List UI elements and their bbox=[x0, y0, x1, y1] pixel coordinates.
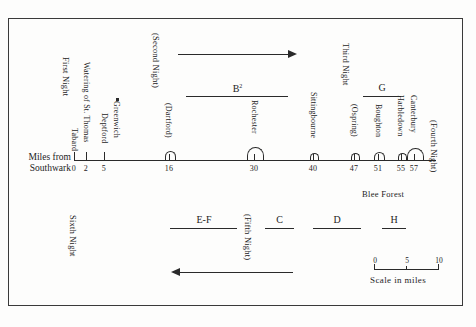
axis-tick-label-57: 57 bbox=[404, 165, 424, 173]
segment-label-g: G bbox=[365, 83, 399, 93]
figure-canvas: Miles from Southwark 0 2 5 16 30 40 47 5… bbox=[0, 0, 476, 327]
segment-label-c: C bbox=[264, 215, 295, 225]
segment-line-h bbox=[382, 228, 406, 229]
greenwich-square-marker bbox=[116, 98, 119, 101]
segment-line-d bbox=[313, 228, 361, 229]
scale-tick-label-10: 10 bbox=[431, 257, 447, 265]
segment-label-b2-superscript: 2 bbox=[239, 83, 242, 89]
place-label-tabard: Tabard bbox=[70, 128, 78, 151]
stop-arc-rochester bbox=[247, 147, 264, 161]
place-label-ospring: (Ospring) bbox=[350, 104, 358, 137]
axis-tick-0 bbox=[74, 152, 75, 161]
axis-title-line2: Southwark bbox=[16, 163, 71, 174]
figure-border bbox=[8, 18, 463, 306]
segment-label-h: H bbox=[378, 215, 410, 225]
axis-tick-label-40: 40 bbox=[303, 165, 323, 173]
place-label-dartford: (Dartford) bbox=[164, 103, 172, 138]
place-label-greenwich: Greenwich bbox=[112, 101, 120, 138]
return-arrow-head-icon bbox=[171, 268, 180, 276]
axis-tick-2 bbox=[86, 152, 87, 161]
segment-line-ef bbox=[170, 228, 237, 229]
scale-tick-label-0: 0 bbox=[367, 257, 383, 265]
place-label-boughton: Boughton bbox=[374, 104, 382, 137]
place-label-canterbury: Canterbury bbox=[409, 95, 417, 133]
scale-tick-label-5: 5 bbox=[399, 257, 415, 265]
outbound-arrow-line bbox=[178, 54, 290, 55]
segment-label-b2: B2 bbox=[210, 83, 265, 94]
return-arrow-line bbox=[180, 272, 293, 273]
segment-label-ef: E-F bbox=[185, 215, 223, 225]
axis-tick-label-5: 5 bbox=[94, 165, 114, 173]
place-label-deptford: Deptford bbox=[100, 113, 108, 143]
place-label-rochester: Rochester bbox=[250, 100, 258, 134]
stop-arc-canterbury bbox=[407, 148, 424, 161]
outbound-arrow-head-icon bbox=[288, 50, 297, 58]
scale-caption: Scale in miles bbox=[370, 276, 426, 285]
place-label-watering-of-st-thomas: Watering of St. Thomas bbox=[82, 62, 90, 143]
annotation-blee-forest: Blee Forest bbox=[362, 189, 404, 199]
axis-tick-label-30: 30 bbox=[244, 165, 264, 173]
night-label-third: Third Night bbox=[342, 43, 351, 86]
segment-label-d: D bbox=[320, 215, 354, 225]
place-label-harbledown: Harbledown bbox=[396, 95, 404, 137]
stop-arc-dartford bbox=[165, 151, 176, 161]
stop-arc-harbledown bbox=[398, 153, 407, 161]
night-label-fifth: (Fifth Night) bbox=[244, 214, 253, 260]
night-label-second: (Second Night) bbox=[152, 33, 161, 88]
axis-tick-5 bbox=[104, 152, 105, 161]
stop-arc-boughton bbox=[374, 152, 385, 161]
night-label-sixth: Sixth Night bbox=[69, 215, 78, 257]
axis-tick-label-51: 51 bbox=[368, 165, 388, 173]
night-label-first: First Night bbox=[62, 57, 71, 96]
stop-arc-sittingbourne bbox=[310, 153, 319, 161]
night-label-fourth: (Fourth Night) bbox=[430, 120, 439, 173]
axis-tick-label-16: 16 bbox=[159, 165, 179, 173]
axis-tick-label-47: 47 bbox=[344, 165, 364, 173]
axis-title-line1: Miles from bbox=[16, 152, 71, 163]
place-label-sittingbourne: Sittingbourne bbox=[309, 92, 317, 138]
segment-line-b2 bbox=[186, 96, 288, 97]
stop-arc-ospring bbox=[351, 153, 360, 161]
axis-tick-label-2: 2 bbox=[76, 165, 96, 173]
scale-bar-tick-mid bbox=[406, 266, 407, 270]
segment-line-g bbox=[363, 96, 401, 97]
segment-line-c bbox=[265, 228, 294, 229]
